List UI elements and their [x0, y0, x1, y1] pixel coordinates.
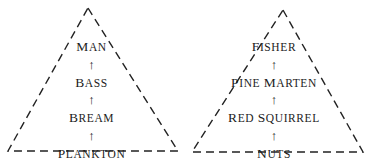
food-chain-woodland: FISHER ↑ PINE MARTEN ↑ RED SQUIRREL ↑ NU… [183, 0, 365, 163]
ecological-pyramids-figure: MAN ↑ BASS ↑ BREAM ↑ PLANKTON FISHER ↑ P… [0, 0, 365, 163]
level-rest: AN [89, 41, 107, 53]
arrow-up-icon: ↑ [88, 58, 95, 71]
level-initial-2: S [258, 110, 266, 125]
trophic-level-bass: BASS [75, 76, 108, 90]
level-initial: P [58, 146, 66, 161]
trophic-level-plankton: PLANKTON [58, 147, 126, 161]
level-initial: M [76, 39, 89, 54]
level-rest: REAM [78, 112, 114, 124]
level-rest-2: ARTEN [276, 77, 317, 89]
level-rest: UTS [267, 148, 291, 160]
level-initial: B [75, 75, 85, 90]
level-initial: F [252, 39, 260, 54]
level-rest: ISHER [260, 41, 296, 53]
level-rest: LANKTON [66, 148, 126, 160]
food-chain-aquatic: MAN ↑ BASS ↑ BREAM ↑ PLANKTON [0, 0, 183, 163]
trophic-level-fisher: FISHER [252, 40, 296, 54]
level-rest: ED [238, 112, 258, 124]
trophic-level-pine-marten: PINE MARTEN [231, 76, 317, 90]
level-rest: INE [239, 77, 263, 89]
arrow-up-icon: ↑ [271, 129, 278, 142]
trophic-level-nuts: NUTS [257, 147, 291, 161]
pyramid-aquatic: MAN ↑ BASS ↑ BREAM ↑ PLANKTON [0, 0, 183, 163]
arrow-up-icon: ↑ [271, 58, 278, 71]
arrow-up-icon: ↑ [88, 93, 95, 106]
level-initial-2: M [264, 75, 277, 90]
level-initial: N [257, 146, 267, 161]
trophic-level-bream: BREAM [69, 111, 114, 125]
level-rest: ASS [85, 77, 108, 89]
level-initial: R [228, 110, 238, 125]
level-initial: P [231, 75, 239, 90]
level-rest-2: QUIRREL [266, 112, 320, 124]
arrow-up-icon: ↑ [88, 129, 95, 142]
arrow-up-icon: ↑ [271, 93, 278, 106]
trophic-level-man: MAN [76, 40, 106, 54]
pyramid-woodland: FISHER ↑ PINE MARTEN ↑ RED SQUIRREL ↑ NU… [183, 0, 365, 163]
trophic-level-red-squirrel: RED SQUIRREL [228, 111, 320, 125]
